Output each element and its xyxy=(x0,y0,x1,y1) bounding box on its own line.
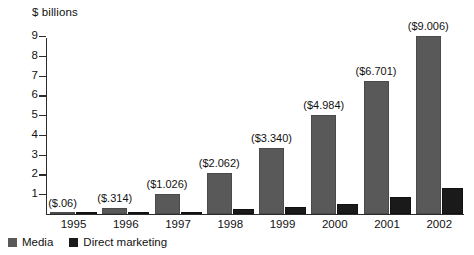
y-axis-tick-label: 7 xyxy=(20,70,38,82)
bar-value-label: ($4.984) xyxy=(298,100,350,111)
bar-group: ($9.006) xyxy=(412,36,464,214)
bar-media xyxy=(364,81,389,214)
x-axis-tick-label: 1996 xyxy=(100,218,152,230)
y-axis-tick-label: 6 xyxy=(20,89,38,101)
bar-direct-marketing xyxy=(442,188,463,214)
bar-group: ($6.701) xyxy=(360,36,412,214)
bar-group: ($1.026) xyxy=(151,36,203,214)
legend-swatch-media-icon xyxy=(8,238,17,247)
y-axis-tick xyxy=(39,36,46,37)
y-axis-tick xyxy=(39,56,46,57)
bar-direct-marketing xyxy=(128,212,149,214)
bar-chart: $ billions 123456789($.06)($.314)($1.026… xyxy=(0,0,474,255)
bar-value-label: ($.06) xyxy=(37,198,89,209)
bar-group: ($2.062) xyxy=(203,36,255,214)
bar-direct-marketing xyxy=(76,212,97,214)
y-axis-tick xyxy=(39,115,46,116)
bar-direct-marketing xyxy=(285,207,306,214)
y-axis-tick xyxy=(39,174,46,175)
legend-item-direct-marketing: Direct marketing xyxy=(69,236,167,248)
x-axis-tick-label: 2002 xyxy=(413,218,465,230)
y-axis-tick xyxy=(39,76,46,77)
bar-media xyxy=(207,173,232,214)
bar-value-label: ($9.006) xyxy=(402,21,454,32)
bar-value-label: ($1.026) xyxy=(141,179,193,190)
y-axis-tick-label: 5 xyxy=(20,109,38,121)
bar-media xyxy=(50,212,75,214)
y-axis-tick-label: 2 xyxy=(20,168,38,180)
bar-group: ($.06) xyxy=(46,36,98,214)
bar-media xyxy=(311,115,336,214)
bar-media xyxy=(416,36,441,214)
bar-media xyxy=(102,208,127,214)
bar-group: ($3.340) xyxy=(255,36,307,214)
bar-direct-marketing xyxy=(181,212,202,214)
y-axis-tick-label: 8 xyxy=(20,50,38,62)
bar-value-label: ($3.340) xyxy=(246,133,298,144)
y-axis-tick-label: 4 xyxy=(20,129,38,141)
legend-swatch-direct-marketing-icon xyxy=(69,238,78,247)
bar-value-label: ($6.701) xyxy=(350,66,402,77)
y-axis-tick xyxy=(39,135,46,136)
bar-group: ($4.984) xyxy=(307,36,359,214)
bar-direct-marketing xyxy=(390,197,411,214)
y-axis-tick-label: 1 xyxy=(20,188,38,200)
bar-direct-marketing xyxy=(233,209,254,214)
legend-item-media: Media xyxy=(8,236,53,248)
y-axis-tick-label: 9 xyxy=(20,30,38,42)
x-axis-tick-label: 1995 xyxy=(48,218,100,230)
y-axis-tick xyxy=(39,95,46,96)
bar-media xyxy=(155,194,180,214)
x-axis-tick-label: 2001 xyxy=(361,218,413,230)
legend-label-direct-marketing: Direct marketing xyxy=(83,236,167,248)
bar-value-label: ($.314) xyxy=(89,193,141,204)
y-axis-tick-label: 3 xyxy=(20,149,38,161)
legend-label-media: Media xyxy=(22,236,53,248)
chart-legend: Media Direct marketing xyxy=(8,236,176,248)
bar-direct-marketing xyxy=(337,204,358,214)
y-axis-tick xyxy=(39,155,46,156)
bar-value-label: ($2.062) xyxy=(193,158,245,169)
x-axis-tick-label: 1997 xyxy=(152,218,204,230)
x-axis-tick-label: 1998 xyxy=(204,218,256,230)
x-axis-tick-label: 1999 xyxy=(257,218,309,230)
bar-media xyxy=(259,148,284,214)
plot-area: 123456789($.06)($.314)($1.026)($2.062)($… xyxy=(46,36,464,214)
y-axis-tick xyxy=(39,194,46,195)
x-axis-tick-label: 2000 xyxy=(309,218,361,230)
y-axis-title: $ billions xyxy=(32,6,78,18)
